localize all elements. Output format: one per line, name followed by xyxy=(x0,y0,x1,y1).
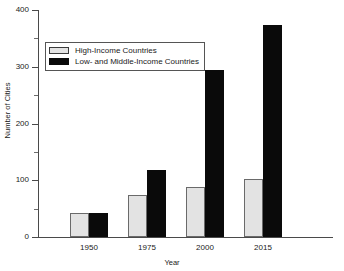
bar-2015-series-1 xyxy=(244,179,263,237)
legend-item-low-middle-income: Low- and Middle-Income Countries xyxy=(49,56,199,67)
bar-chart-figure: 0100200300400 1950197520002015 Number of… xyxy=(0,0,344,271)
x-tick-label-1975: 1975 xyxy=(117,244,177,252)
y-minor-tick-50 xyxy=(34,209,38,210)
y-minor-tick-250 xyxy=(34,95,38,96)
y-tick-200 xyxy=(32,124,38,125)
legend-label-high-income: High-Income Countries xyxy=(75,47,157,55)
bar-2000-series-2 xyxy=(205,70,224,237)
y-tick-0 xyxy=(32,237,38,238)
y-minor-tick-350 xyxy=(34,38,38,39)
bar-1975-series-1 xyxy=(128,195,147,237)
y-axis-line xyxy=(38,10,39,238)
bar-2000-series-1 xyxy=(186,187,205,237)
bar-2015-series-2 xyxy=(263,25,282,237)
legend-label-low-middle-income: Low- and Middle-Income Countries xyxy=(75,58,199,66)
legend-swatch-low-middle-income xyxy=(49,58,69,65)
y-axis-title: Number of Cities xyxy=(3,71,12,151)
y-tick-400 xyxy=(32,10,38,11)
bar-1950-series-1 xyxy=(70,213,89,237)
y-tick-label-400: 400 xyxy=(0,6,29,14)
bar-1975-series-2 xyxy=(147,170,166,237)
y-minor-tick-150 xyxy=(34,152,38,153)
y-tick-label-100: 100 xyxy=(0,176,29,184)
y-tick-300 xyxy=(32,67,38,68)
x-tick-label-1950: 1950 xyxy=(59,244,119,252)
y-tick-label-0: 0 xyxy=(0,233,29,241)
x-axis-title: Year xyxy=(0,258,344,267)
x-tick-label-2015: 2015 xyxy=(233,244,293,252)
x-axis-line xyxy=(38,237,333,238)
legend: High-Income Countries Low- and Middle-In… xyxy=(45,42,205,71)
x-tick-label-2000: 2000 xyxy=(175,244,235,252)
y-tick-100 xyxy=(32,180,38,181)
legend-item-high-income: High-Income Countries xyxy=(49,45,199,56)
legend-swatch-high-income xyxy=(49,47,69,54)
bar-1950-series-2 xyxy=(89,213,108,237)
